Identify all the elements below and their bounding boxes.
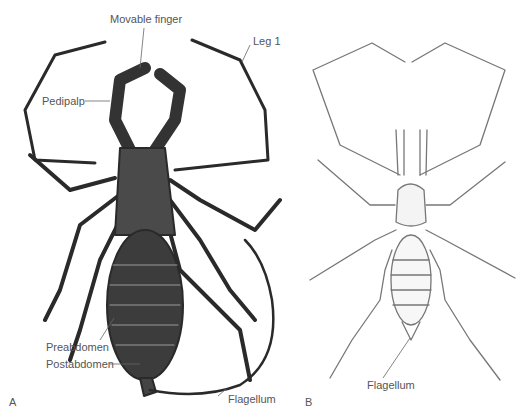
leader-line-b bbox=[383, 338, 410, 378]
specimen-b bbox=[310, 43, 515, 380]
label-flagellum-b: Flagellum bbox=[367, 379, 415, 391]
label-pedipalp: Pedipalp bbox=[42, 95, 85, 107]
label-leg-1: Leg 1 bbox=[253, 35, 281, 47]
panel-label-a: A bbox=[9, 396, 16, 408]
panel-label-b: B bbox=[305, 396, 312, 408]
label-movable-finger: Movable finger bbox=[110, 13, 182, 25]
label-preabdomen: Preabdomen bbox=[46, 341, 109, 353]
label-flagellum-a: Flagellum bbox=[228, 393, 276, 405]
label-postabdomen: Postabdomen bbox=[46, 358, 114, 370]
